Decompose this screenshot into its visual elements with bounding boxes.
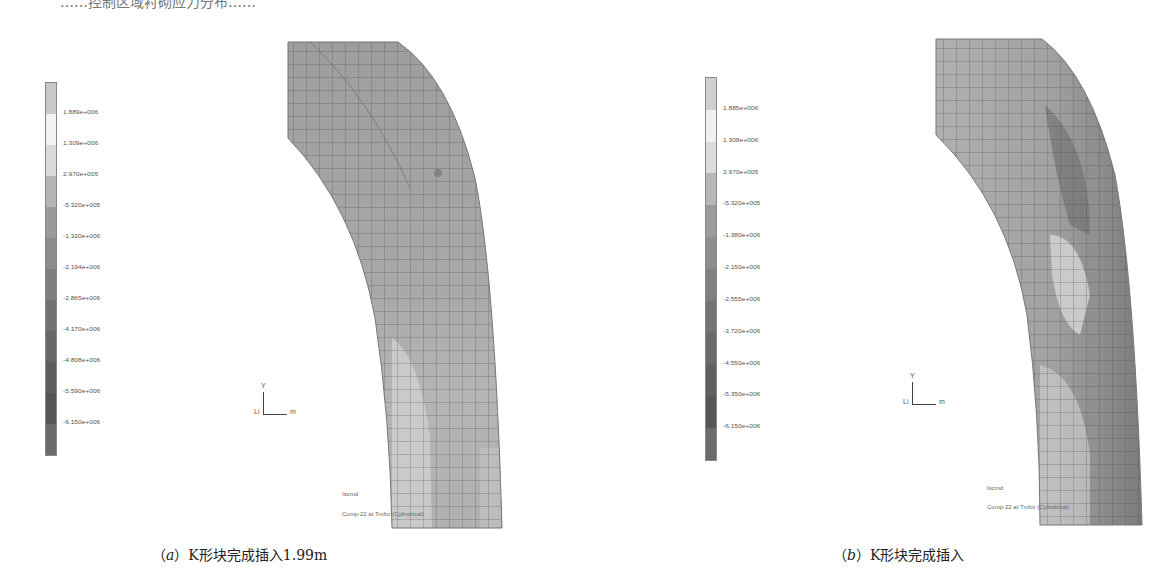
legend-label: -5.590e+006 [63, 388, 100, 394]
caption-b: （b）K形块完成插入 [833, 544, 964, 564]
legend-label: -4.550e+006 [723, 360, 760, 366]
legend-swatch [706, 173, 716, 205]
legend-label: -2.865e+006 [63, 295, 100, 301]
triad-origin-label: Li [903, 398, 908, 405]
triad-x-label: m [290, 408, 296, 415]
legend-swatch [706, 78, 716, 110]
legend-color-bar [705, 77, 717, 461]
triad-x-label: m [939, 398, 945, 405]
legend-label: -4.808e+006 [63, 357, 100, 363]
caption-paren-close: ） [174, 547, 188, 563]
triad-x-axis [912, 404, 936, 405]
coordinate-triad-b: Y Li m [907, 374, 967, 414]
figure-b: 1.885e+0061.308e+0062.970e+005-5.320e+00… [580, 0, 1165, 540]
legend-label: -6.150e+006 [63, 419, 100, 425]
legend-label: -4.170e+006 [63, 326, 100, 332]
legend-label: -1.320e+006 [63, 233, 100, 239]
caption-text: K形块完成插入1.99m [188, 547, 327, 563]
legend-label: -1.380e+006 [723, 232, 760, 238]
legend-label: 1.889e+006 [63, 109, 98, 115]
legend-label: -5.320e+005 [63, 202, 100, 208]
legend-swatch [706, 428, 716, 460]
legend-swatch [46, 393, 56, 424]
triad-y-axis [912, 382, 913, 404]
legend-label: -5.350e+006 [723, 391, 760, 397]
legend-swatch [706, 142, 716, 174]
legend-label: 1.309e+006 [63, 140, 98, 146]
caption-paren-open: （ [152, 547, 166, 563]
info-line-2: Comp-22 at Tmfor (Cylindrical) [342, 511, 424, 517]
triad-origin-label: Li [254, 408, 259, 415]
legend-label: -6.150e+006 [723, 423, 760, 429]
legend-label: -2.555e+006 [723, 296, 760, 302]
caption-letter: b [847, 547, 856, 563]
legend-label: -5.320e+005 [723, 200, 760, 206]
legend-swatch [46, 83, 56, 114]
triad-y-axis [263, 392, 264, 414]
caption-paren-close: ） [856, 547, 870, 563]
caption-text: K形块完成插入 [870, 547, 964, 563]
legend-swatch [706, 301, 716, 333]
legend-swatch [46, 238, 56, 269]
legend-swatch [46, 300, 56, 331]
legend-label: 2.970e+005 [723, 169, 758, 175]
legend-label: 1.308e+006 [723, 137, 758, 143]
legend-swatch [706, 269, 716, 301]
triad-y-label: Y [910, 372, 915, 379]
legend-swatch [706, 205, 716, 237]
legend-swatch [46, 424, 56, 455]
legend-swatch [706, 364, 716, 396]
triad-x-axis [263, 414, 287, 415]
caption-a: （a）K形块完成插入1.99m [152, 544, 327, 564]
legend-swatch [706, 110, 716, 142]
figure-a: 1.889e+0061.309e+0062.970e+005-5.320e+00… [0, 0, 580, 540]
legend-swatch [46, 362, 56, 393]
legend-swatch [706, 237, 716, 269]
legend-swatch [706, 396, 716, 428]
legend-swatch [46, 145, 56, 176]
legend-label: 2.970e+005 [63, 171, 98, 177]
fem-mesh-model-a [280, 38, 560, 538]
fem-mesh-model-b [930, 35, 1165, 535]
caption-paren-open: （ [833, 547, 847, 563]
legend-label: 1.885e+006 [723, 105, 758, 111]
legend-label: -2.150e+006 [723, 264, 760, 270]
legend-swatch [46, 207, 56, 238]
legend-swatch [46, 176, 56, 207]
legend-label: -3.720e+006 [723, 328, 760, 334]
triad-y-label: Y [261, 382, 266, 389]
info-line-2: Comp-22 at Tmfor (Cylindrical) [987, 504, 1069, 510]
legend-swatch [46, 331, 56, 362]
legend-label: -2.194e+006 [63, 264, 100, 270]
legend-swatch [706, 333, 716, 365]
info-line-1: Iscmd [987, 485, 1003, 491]
legend-swatch [46, 269, 56, 300]
info-line-1: Iscmd [342, 491, 358, 497]
coordinate-triad-a: Y Li m [258, 384, 318, 424]
legend-color-bar [45, 82, 57, 456]
legend-swatch [46, 114, 56, 145]
